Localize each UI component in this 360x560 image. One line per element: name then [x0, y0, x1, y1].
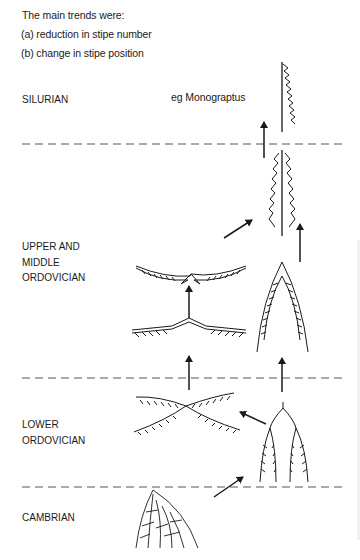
monograptus-icon [282, 62, 295, 132]
graptolite-evolution-diagram [0, 0, 360, 560]
arrow-diagonal-icon [240, 412, 266, 424]
dicranograptid-upper-icon [136, 266, 246, 284]
arrow-diagonal-icon [224, 220, 252, 238]
pendent-branching-graptolite-icon [260, 402, 308, 482]
period-boundaries [22, 144, 347, 487]
dichograptid-four-stipe-icon [134, 393, 240, 435]
reclined-graptolite-icon [132, 318, 246, 337]
dendroid-graptolite-icon [136, 490, 198, 548]
biserial-graptolite-icon [269, 150, 295, 236]
scandent-graptolite-icon [257, 262, 308, 352]
